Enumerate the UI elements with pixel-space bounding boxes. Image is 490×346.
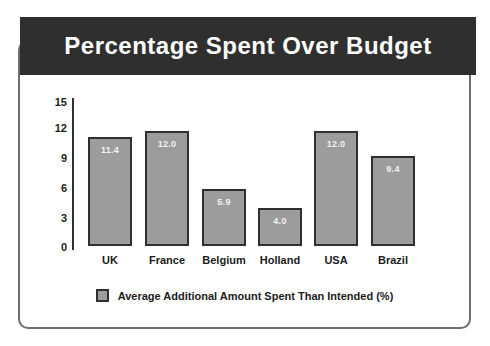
category-label: Belgium (202, 254, 245, 266)
y-axis-tick: 9 (32, 151, 67, 165)
category-label: USA (324, 254, 347, 266)
bar-value-label: 12.0 (316, 139, 356, 149)
category-label: Brazil (378, 254, 408, 266)
bar-value-label: 4.0 (260, 216, 300, 226)
y-axis-tick: 12 (32, 121, 67, 135)
legend-label: Average Additional Amount Spent Than Int… (118, 290, 394, 302)
category-label: France (149, 254, 185, 266)
chart-screen: Percentage Spent Over Budget 15 12 9 6 3… (0, 0, 490, 346)
bar-uk: 11.4 (88, 137, 132, 246)
bar-usa: 12.0 (314, 131, 358, 246)
bar-value-label: 12.0 (147, 139, 187, 149)
category-label: UK (102, 254, 118, 266)
bar-france: 12.0 (145, 131, 189, 246)
y-axis-tick: 15 (32, 95, 67, 109)
y-axis-tick: 3 (32, 211, 67, 225)
bar-value-label: 9.4 (373, 164, 413, 174)
category-label: Holland (260, 254, 300, 266)
bar-holland: 4.0 (258, 208, 302, 246)
bar-belgium: 5.9 (202, 189, 246, 246)
y-axis-tick: 6 (32, 181, 67, 195)
bar-value-label: 11.4 (90, 145, 130, 155)
legend: Average Additional Amount Spent Than Int… (18, 289, 471, 302)
bar-value-label: 5.9 (204, 197, 244, 207)
y-axis-tick: 0 (32, 240, 67, 254)
bar-brazil: 9.4 (371, 156, 415, 246)
y-axis-line (72, 98, 74, 250)
legend-swatch-icon (96, 289, 109, 302)
